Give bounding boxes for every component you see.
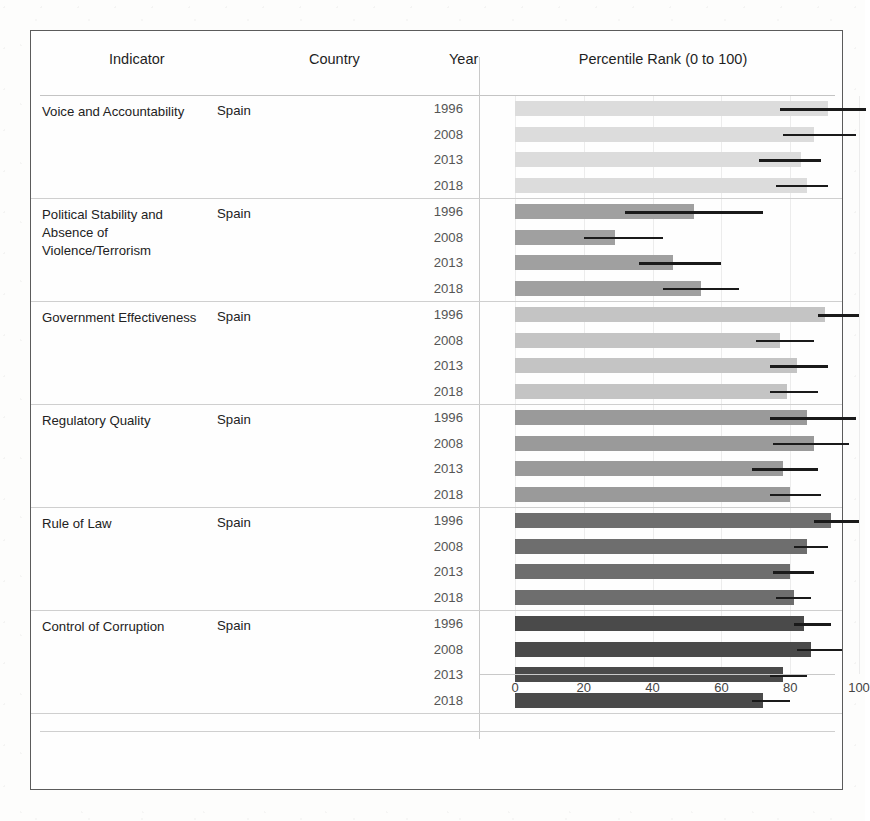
- axis-tick-label: 100: [848, 680, 870, 695]
- error-bar: [780, 108, 866, 111]
- axis-tick-label: 0: [511, 680, 518, 695]
- table-row: 2018: [31, 585, 842, 611]
- error-bar: [770, 391, 818, 394]
- column-header-indicator: Indicator: [109, 51, 165, 67]
- table-row: 1996: [31, 199, 842, 225]
- table-row: 2008: [31, 122, 842, 148]
- error-bar: [818, 314, 859, 317]
- year-label: 1996: [411, 513, 463, 528]
- error-bar: [773, 443, 849, 446]
- year-label: 2018: [411, 693, 463, 708]
- row-plot: [480, 508, 833, 534]
- error-bar: [770, 365, 828, 368]
- axis-tick-label: 80: [783, 680, 797, 695]
- table-row: 1996: [31, 405, 842, 431]
- row-plot: [480, 585, 833, 611]
- row-plot: [480, 276, 833, 302]
- indicator-groups: Voice and AccountabilitySpain19962008201…: [31, 96, 842, 714]
- value-bar: [515, 178, 807, 193]
- error-bar: [794, 546, 828, 549]
- row-plot: [480, 482, 833, 508]
- error-bar: [794, 623, 832, 626]
- table-row: 2018: [31, 276, 842, 302]
- table-row: 2013: [31, 147, 842, 173]
- value-bar: [515, 539, 807, 554]
- error-bar: [776, 185, 828, 188]
- table-row: 1996: [31, 96, 842, 122]
- value-bar: [515, 590, 794, 605]
- row-plot: [480, 534, 833, 560]
- year-label: 2013: [411, 461, 463, 476]
- year-label: 2008: [411, 333, 463, 348]
- error-bar: [639, 262, 722, 265]
- row-plot: [480, 122, 833, 148]
- year-label: 2013: [411, 152, 463, 167]
- error-bar: [584, 237, 663, 240]
- value-bar: [515, 513, 831, 528]
- chart-title: Percentile Rank (0 to 100): [483, 51, 843, 67]
- value-bar: [515, 358, 797, 373]
- indicator-group: Regulatory QualitySpain1996200820132018: [31, 405, 842, 508]
- table-row: 2018: [31, 482, 842, 508]
- indicator-group: Rule of LawSpain1996200820132018: [31, 508, 842, 611]
- table-row: 2008: [31, 328, 842, 354]
- row-plot: [480, 328, 833, 354]
- table-header: Indicator Country Year Percentile Rank (…: [31, 31, 842, 95]
- table-row: 2018: [31, 173, 842, 199]
- year-label: 2018: [411, 590, 463, 605]
- row-plot: [480, 302, 833, 328]
- year-label: 1996: [411, 616, 463, 631]
- row-plot: [480, 611, 833, 637]
- row-plot: [480, 199, 833, 225]
- year-label: 2008: [411, 539, 463, 554]
- indicator-group: Government EffectivenessSpain19962008201…: [31, 302, 842, 405]
- row-plot: [480, 456, 833, 482]
- row-plot: [480, 379, 833, 405]
- axis-tick-label: 20: [577, 680, 591, 695]
- value-bar: [515, 410, 807, 425]
- table-row: 2008: [31, 431, 842, 457]
- value-bar: [515, 564, 790, 579]
- year-label: 2018: [411, 178, 463, 193]
- year-label: 2013: [411, 358, 463, 373]
- value-bar: [515, 384, 787, 399]
- year-label: 1996: [411, 101, 463, 116]
- value-bar: [515, 616, 804, 631]
- row-plot: [480, 353, 833, 379]
- row-plot: [480, 559, 833, 585]
- error-bar: [776, 597, 810, 600]
- year-label: 2008: [411, 127, 463, 142]
- table-row: 2013: [31, 250, 842, 276]
- row-plot: [480, 96, 833, 122]
- report-frame: Indicator Country Year Percentile Rank (…: [30, 30, 843, 790]
- error-bar: [625, 211, 763, 214]
- table-row: 2008: [31, 637, 842, 663]
- table-row: 2008: [31, 534, 842, 560]
- error-bar: [663, 288, 739, 291]
- indicator-group: Political Stability and Absence of Viole…: [31, 199, 842, 302]
- value-bar: [515, 487, 790, 502]
- table-row: 1996: [31, 302, 842, 328]
- row-plot: [480, 173, 833, 199]
- row-plot: [480, 225, 833, 251]
- value-bar: [515, 461, 783, 476]
- error-bar: [783, 134, 855, 137]
- column-header-country: Country: [309, 51, 360, 67]
- value-bar: [515, 436, 814, 451]
- error-bar: [814, 520, 859, 523]
- row-plot: [480, 250, 833, 276]
- table-row: 2013: [31, 559, 842, 585]
- error-bar: [756, 340, 814, 343]
- year-label: 1996: [411, 204, 463, 219]
- year-label: 2018: [411, 281, 463, 296]
- year-label: 2013: [411, 564, 463, 579]
- axis-tick-label: 40: [645, 680, 659, 695]
- value-bar: [515, 127, 814, 142]
- row-plot: [480, 431, 833, 457]
- table-row: 2008: [31, 225, 842, 251]
- indicator-group: Voice and AccountabilitySpain19962008201…: [31, 96, 842, 199]
- x-axis: 020406080100: [480, 674, 835, 734]
- table-row: 2018: [31, 379, 842, 405]
- year-label: 2013: [411, 667, 463, 682]
- gridline: [859, 96, 860, 674]
